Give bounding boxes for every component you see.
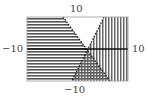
x-max-label: 10 xyxy=(132,44,145,54)
x-min-label: −10 xyxy=(2,44,23,54)
y-min-label: −10 xyxy=(64,85,85,95)
y-max-label: 10 xyxy=(70,4,83,14)
